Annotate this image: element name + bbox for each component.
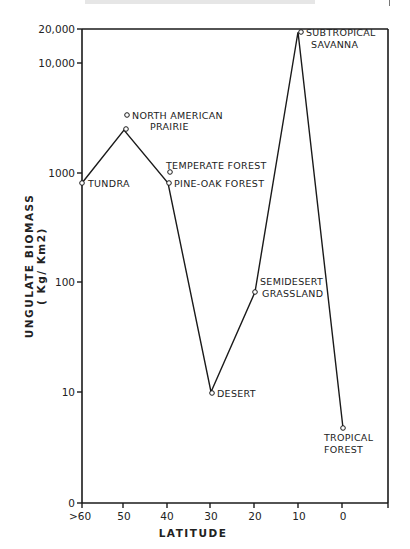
point-pine-oak-forest [167, 181, 172, 186]
label-pine-oak-forest: PINE-OAK FOREST [174, 178, 264, 189]
y-axis-title: UNGULATE BIOMASS [23, 194, 35, 339]
x-tick-gt60: >60 [69, 510, 91, 522]
label-temperate-forest: TEMPERATE FOREST [165, 160, 267, 171]
label-savanna-line2: SAVANNA [311, 39, 359, 50]
point-subtropical-savanna [299, 30, 304, 35]
label-tropical-line2: FOREST [324, 444, 363, 455]
y-tick-1000: 1000 [48, 167, 75, 179]
biomass-latitude-chart: 20,000 10,000 1000 100 10 0 >60 50 40 30… [0, 0, 410, 549]
biomass-line [82, 32, 343, 428]
y-tick-10: 10 [62, 386, 75, 398]
y-axis-title-group: UNGULATE BIOMASS ( Kg/ Km2) [23, 194, 47, 339]
point-semidesert-grassland [253, 290, 258, 295]
point-prairie-upper [125, 113, 130, 118]
x-axis-title: LATITUDE [159, 527, 228, 539]
y-tick-10000: 10,000 [38, 57, 75, 69]
label-tropical-line1: TROPICAL [323, 432, 374, 443]
x-tick-30: 30 [204, 510, 217, 522]
point-tundra [80, 181, 85, 186]
point-prairie-lower [124, 127, 129, 132]
label-semidesert-line1: SEMIDESERT [260, 276, 323, 287]
label-desert: DESERT [217, 388, 256, 399]
label-savanna-line1: SUBTROPICAL [306, 27, 376, 38]
y-axis-units: ( Kg/ Km2) [35, 227, 47, 305]
point-desert [210, 391, 215, 396]
label-semidesert-line2: GRASSLAND [262, 288, 323, 299]
x-tick-20: 20 [248, 510, 261, 522]
y-tick-0: 0 [68, 497, 75, 509]
x-tick-40: 40 [160, 510, 173, 522]
point-labels: TUNDRA NORTH AMERICAN PRAIRIE TEMPERATE … [87, 27, 376, 455]
x-axis-tick-labels: >60 50 40 30 20 10 0 [69, 510, 346, 522]
label-prairie-line1: NORTH AMERICAN [132, 110, 223, 121]
data-markers [80, 30, 346, 431]
x-tick-10: 10 [292, 510, 305, 522]
y-tick-20000: 20,000 [38, 23, 75, 35]
x-tick-50: 50 [117, 510, 130, 522]
label-tundra: TUNDRA [87, 178, 130, 189]
point-tropical-forest [341, 426, 346, 431]
y-tick-100: 100 [55, 276, 75, 288]
label-prairie-line2: PRAIRIE [150, 121, 189, 132]
x-tick-0: 0 [340, 510, 347, 522]
